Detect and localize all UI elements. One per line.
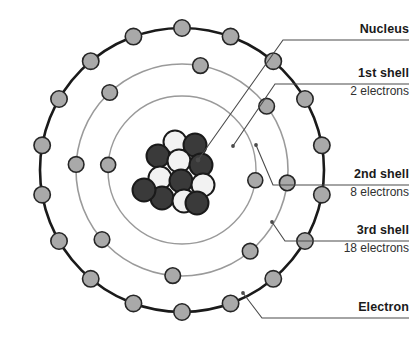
- label-electron: Electron: [318, 300, 409, 315]
- electron: [125, 28, 141, 44]
- electron: [101, 157, 116, 172]
- label-sub-shell-1: 2 electrons: [318, 84, 409, 99]
- electron: [94, 232, 110, 248]
- label-title-shell-1: 1st shell: [318, 66, 409, 81]
- electron: [51, 233, 67, 249]
- electron: [165, 268, 181, 284]
- electron: [34, 186, 50, 202]
- leader-shell-3-endpoint: [270, 220, 274, 224]
- electron: [51, 91, 67, 107]
- label-shell-3: 3rd shell18 electrons: [318, 223, 409, 256]
- electron: [242, 243, 258, 259]
- leader-shell-1-endpoint: [231, 144, 235, 148]
- electron: [102, 85, 118, 101]
- label-nucleus: Nucleus: [318, 22, 409, 37]
- label-title-shell-2: 2nd shell: [318, 167, 409, 182]
- electron: [83, 53, 99, 69]
- electron: [34, 137, 50, 153]
- label-shell-2: 2nd shell8 electrons: [318, 167, 409, 200]
- electron: [68, 157, 84, 173]
- electron: [125, 295, 141, 311]
- electron: [222, 28, 238, 44]
- label-title-electron: Electron: [318, 300, 409, 315]
- proton-particle: [186, 192, 209, 215]
- label-shell-1: 1st shell2 electrons: [318, 66, 409, 99]
- electron: [297, 91, 313, 107]
- electron: [248, 173, 263, 188]
- electron: [193, 58, 209, 74]
- leader-shell-2-endpoint: [254, 143, 258, 147]
- electron: [279, 175, 295, 191]
- atomic-structure-diagram: Nucleus1st shell2 electrons2nd shell8 el…: [0, 0, 417, 342]
- leader-nucleus-endpoint: [196, 158, 201, 163]
- leader-electron: [243, 293, 285, 318]
- proton-particle: [133, 179, 156, 202]
- electron: [174, 304, 190, 320]
- label-title-shell-3: 3rd shell: [318, 223, 409, 238]
- electron: [174, 20, 190, 36]
- leader-shell-3: [272, 222, 300, 241]
- nucleus-group: [133, 131, 215, 215]
- label-sub-shell-3: 18 electrons: [318, 241, 409, 256]
- electron: [222, 295, 238, 311]
- label-title-nucleus: Nucleus: [318, 22, 409, 37]
- label-sub-shell-2: 8 electrons: [318, 185, 409, 200]
- leader-electron-endpoint: [241, 291, 245, 295]
- electron: [314, 137, 330, 153]
- electron: [259, 98, 275, 114]
- electron: [265, 271, 281, 287]
- electron: [83, 271, 99, 287]
- proton-particle: [147, 145, 170, 168]
